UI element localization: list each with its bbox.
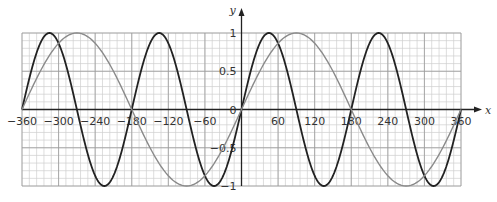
axes: x y — [22, 4, 492, 186]
x-tick-label: 300 — [414, 115, 435, 128]
x-tick-label: −240 — [80, 115, 110, 128]
x-tick-label: 240 — [377, 115, 398, 128]
y-axis-arrow-icon — [239, 8, 245, 16]
y-tick-label: −1 — [220, 180, 236, 193]
x-tick-label: 120 — [304, 115, 325, 128]
x-tick-label: −300 — [43, 115, 73, 128]
x-tick-label: −360 — [7, 115, 37, 128]
x-tick-label: 60 — [271, 115, 285, 128]
y-tick-label: 1 — [230, 27, 237, 40]
y-tick-label: 0 — [230, 104, 237, 117]
y-tick-label: 0.5 — [219, 65, 237, 78]
y-axis-label: y — [229, 4, 237, 17]
x-axis-label: x — [485, 104, 492, 117]
x-tick-label: −60 — [193, 115, 216, 128]
sine-graph: x y −360−300−240−180−120−606012018024030… — [0, 0, 497, 202]
x-axis-arrow-icon — [474, 107, 482, 113]
x-tick-label: −120 — [153, 115, 183, 128]
x-tick-label: −180 — [117, 115, 147, 128]
